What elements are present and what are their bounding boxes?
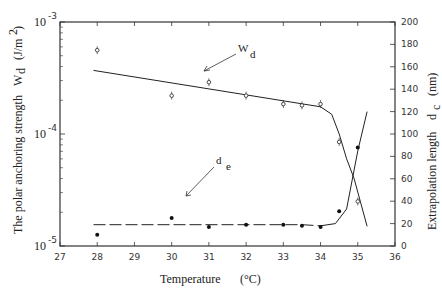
svg-text:(nm): (nm) bbox=[425, 73, 439, 96]
svg-text:W: W bbox=[238, 42, 249, 54]
de-fit-line bbox=[321, 112, 368, 226]
right-tick-label: 60 bbox=[401, 174, 413, 184]
svg-text:Extrapolation length: Extrapolation length bbox=[425, 132, 439, 230]
plot-border bbox=[60, 22, 395, 246]
svg-text:e: e bbox=[226, 160, 231, 172]
x-tick-label: 29 bbox=[129, 252, 141, 262]
wd-data-point bbox=[319, 102, 323, 106]
data-points bbox=[95, 46, 360, 237]
wd-data-point bbox=[356, 200, 360, 204]
svg-text:d: d bbox=[250, 48, 256, 60]
x-tick-label: 27 bbox=[54, 252, 65, 262]
de-data-point bbox=[319, 225, 323, 229]
left-tick-exponent: -3 bbox=[48, 11, 57, 21]
svg-text:(J/m: (J/m bbox=[11, 38, 25, 60]
x-tick-label: 36 bbox=[389, 252, 401, 262]
de-data-point bbox=[244, 223, 248, 227]
x-tick-label: 28 bbox=[91, 252, 103, 262]
svg-text:d: d bbox=[216, 154, 222, 166]
right-tick-label: 100 bbox=[401, 129, 418, 139]
svg-text:c: c bbox=[429, 105, 442, 110]
x-tick-label: 30 bbox=[166, 252, 178, 262]
right-tick-label: 0 bbox=[401, 241, 407, 251]
right-tick-label: 20 bbox=[401, 219, 413, 229]
x-tick-label: 35 bbox=[352, 252, 363, 262]
x-tick-label: 33 bbox=[278, 252, 289, 262]
annotation-wd: W d bbox=[204, 42, 256, 71]
left-tick-label: 10 bbox=[34, 15, 46, 29]
svg-text:Temperature: Temperature bbox=[160, 272, 220, 286]
left-tick-exponent: -4 bbox=[48, 123, 57, 133]
wd-data-point bbox=[244, 94, 248, 98]
de-data-point bbox=[300, 224, 304, 228]
svg-text:): ) bbox=[11, 26, 25, 30]
wd-data-point bbox=[300, 104, 304, 108]
chart: 27282930313233343536 10-510-410-3 020406… bbox=[0, 0, 442, 301]
right-tick-label: 140 bbox=[401, 84, 418, 94]
right-tick-label: 120 bbox=[401, 107, 418, 117]
svg-text:The polar anchoring strength: The polar anchoring strength bbox=[11, 95, 25, 234]
de-data-point bbox=[95, 233, 99, 237]
de-data-point bbox=[356, 145, 360, 149]
right-tick-label: 200 bbox=[401, 17, 418, 27]
left-tick-label: 10 bbox=[34, 239, 46, 253]
right-tick-label: 80 bbox=[401, 151, 413, 161]
svg-text:W: W bbox=[11, 74, 25, 86]
right-tick-label: 180 bbox=[401, 39, 418, 49]
x-tick-label: 32 bbox=[240, 252, 251, 262]
de-data-point bbox=[281, 223, 285, 227]
left-axis-title: The polar anchoring strength W d (J/m 2 … bbox=[6, 26, 28, 234]
x-tick-label: 34 bbox=[315, 252, 327, 262]
wd-fit-line bbox=[94, 70, 368, 226]
wd-data-point bbox=[337, 140, 341, 144]
fit-lines bbox=[94, 70, 368, 226]
de-data-point bbox=[207, 225, 211, 229]
right-axis-title: Extrapolation length d c (nm) bbox=[425, 73, 442, 230]
x-axis-title: Temperature (°C) bbox=[160, 272, 261, 286]
x-tick-label: 31 bbox=[203, 252, 214, 262]
wd-data-point bbox=[95, 48, 99, 52]
de-fit-line-dashed bbox=[94, 225, 321, 226]
wd-data-point bbox=[170, 94, 174, 98]
right-tick-label: 40 bbox=[401, 196, 413, 206]
left-tick-label: 10 bbox=[34, 127, 46, 141]
right-tick-label: 160 bbox=[401, 62, 418, 72]
wd-data-point bbox=[282, 102, 286, 106]
left-tick-exponent: -5 bbox=[48, 235, 57, 245]
de-data-point bbox=[170, 216, 174, 220]
right-axis-ticks: 020406080100120140160180200 bbox=[390, 17, 418, 251]
svg-text:d: d bbox=[425, 114, 439, 120]
wd-data-point bbox=[207, 80, 211, 84]
de-data-point bbox=[337, 209, 341, 213]
svg-text:d: d bbox=[14, 68, 28, 74]
annotation-de: d e bbox=[186, 154, 231, 196]
svg-text:(°C): (°C) bbox=[240, 272, 261, 286]
plot-frame bbox=[60, 22, 395, 246]
